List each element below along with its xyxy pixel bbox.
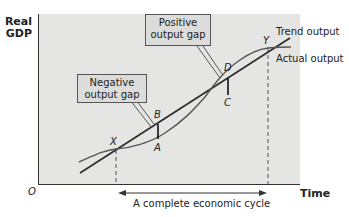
positive-callout-pointer — [197, 46, 222, 78]
negative-output-gap-callout: Negative output gap — [77, 74, 147, 103]
origin-label: O — [28, 186, 36, 197]
positive-output-gap-callout: Positive output gap — [145, 14, 211, 46]
negative-callout-line1: Negative — [82, 77, 142, 89]
cycle-arrow-right-head — [259, 190, 267, 196]
trend-output-label: Trend output — [276, 26, 340, 37]
negative-callout-line2: output gap — [82, 89, 142, 101]
point-b-label: B — [154, 109, 161, 120]
point-d-label: D — [224, 62, 232, 73]
point-c-label: C — [224, 97, 231, 108]
positive-callout-line2: output gap — [150, 29, 206, 41]
point-a-label: A — [154, 142, 161, 153]
point-y-label: Y — [263, 35, 269, 46]
point-x-label: X — [110, 136, 117, 147]
negative-callout-pointer — [130, 100, 154, 128]
cycle-label: A complete economic cycle — [133, 198, 270, 209]
cycle-arrow-left-head — [118, 190, 126, 196]
positive-callout-line1: Positive — [150, 17, 206, 29]
actual-output-label: Actual output — [276, 53, 344, 64]
trend-output-line — [80, 38, 290, 173]
